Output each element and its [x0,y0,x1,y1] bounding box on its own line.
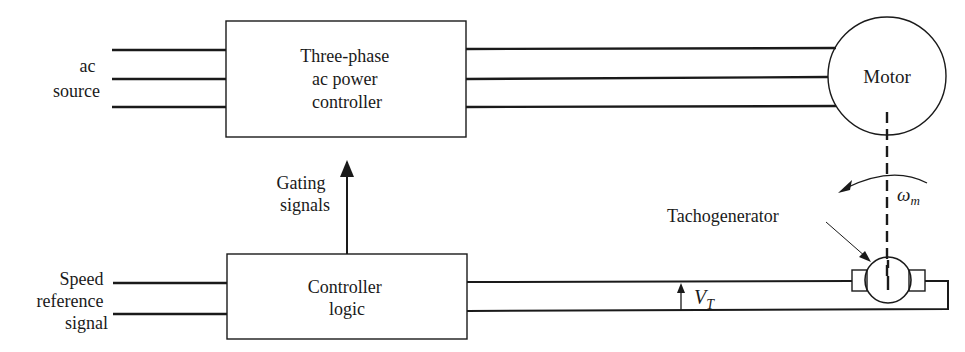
ac-source-wires [112,50,226,107]
gating-arrowhead-icon [340,160,354,177]
power-controller-label: Three-phase ac power controller [300,46,393,112]
controller-logic-label: Controller logic [308,277,387,319]
voltage-arrowhead-icon [677,283,685,293]
ac-source-label: ac source [53,56,100,101]
speed-reference-wires [113,283,227,314]
motor-label: Motor [863,66,911,87]
gating-signals-label: Gating signals [277,173,331,215]
diagram-canvas: ac source Three-phase ac power controlle… [0,0,965,352]
motor-supply-wires [466,48,836,107]
tachogenerator [852,257,925,303]
rotation-arrow [838,175,927,193]
power-controller-block: Three-phase ac power controller [226,21,466,137]
rotation-arrowhead-icon [838,180,852,193]
tachogenerator-label: Tachogenerator [667,206,779,226]
motor-speed-label: ωm [897,184,920,208]
tacho-voltage-label: VT [694,286,715,312]
tachogenerator-leader [826,222,866,257]
controller-logic-block: Controller logic [227,254,467,339]
speed-reference-label: Speed reference signal [37,269,108,333]
